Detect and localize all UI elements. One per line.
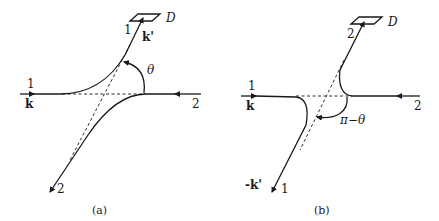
detector-label: D bbox=[165, 11, 176, 25]
outgoing-away-vector: -k' bbox=[245, 178, 262, 192]
detector-icon bbox=[351, 17, 382, 24]
panel-a: D 1 k 2 θ 1 k' 2 (a) bbox=[20, 11, 201, 217]
angle-label: π−θ bbox=[339, 113, 366, 127]
trajectory-1 bbox=[255, 96, 307, 192]
panel-caption: (a) bbox=[92, 204, 107, 217]
outgoing-detector-vector: k' bbox=[142, 30, 154, 44]
outgoing-away-number: 1 bbox=[281, 182, 289, 196]
incoming-left-vector: k bbox=[246, 99, 255, 113]
incoming-left-number: 1 bbox=[248, 79, 256, 93]
panel-b: D 1 k 2 π−θ 2 -k' 1 (b) bbox=[241, 15, 422, 217]
incoming-left-number: 1 bbox=[27, 77, 35, 91]
panel-caption: (b) bbox=[314, 204, 330, 217]
angle-label: θ bbox=[147, 63, 155, 77]
outgoing-away-number: 2 bbox=[57, 182, 65, 196]
scattering-diagram: D 1 k 2 θ 1 k' 2 (a) D 1 k 2 bbox=[0, 0, 439, 221]
incoming-right-number: 2 bbox=[192, 97, 200, 111]
detector-label: D bbox=[387, 15, 398, 29]
dashed-diagonal bbox=[70, 45, 130, 160]
outgoing-detector-number: 1 bbox=[124, 23, 132, 37]
detector-icon bbox=[130, 14, 160, 21]
incoming-right-number: 2 bbox=[414, 99, 422, 113]
dashed-diagonal bbox=[300, 60, 344, 150]
angle-arc bbox=[124, 62, 144, 93]
outgoing-detector-number: 2 bbox=[347, 27, 355, 41]
incoming-left-vector: k bbox=[25, 97, 34, 111]
trajectory-2 bbox=[50, 94, 177, 192]
